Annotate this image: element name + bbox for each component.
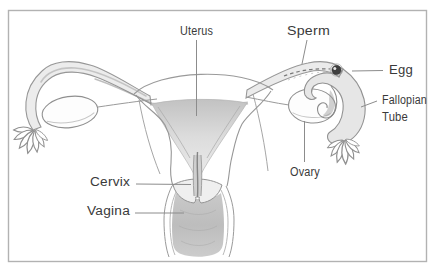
fallopian-tube-label-line2: Tube: [382, 110, 408, 124]
fallopian-tube-label-line1: Fallopian: [382, 93, 427, 107]
diagram-page: Uterus Sperm Egg Fallopian Tube Ovary Ce…: [0, 0, 435, 273]
egg-leader-line: [352, 71, 383, 72]
reproductive-system-diagram: Uterus Sperm Egg Fallopian Tube Ovary Ce…: [0, 0, 435, 273]
ovary-label: Ovary: [290, 165, 320, 179]
cervix-label: Cervix: [90, 175, 130, 189]
vagina-label: Vagina: [87, 204, 130, 218]
sperm-label: Sperm: [287, 24, 330, 38]
uterus-label: Uterus: [180, 24, 213, 38]
egg-cell: [330, 64, 342, 76]
egg-label: Egg: [389, 63, 413, 77]
cervix-leader-line: [136, 184, 191, 185]
